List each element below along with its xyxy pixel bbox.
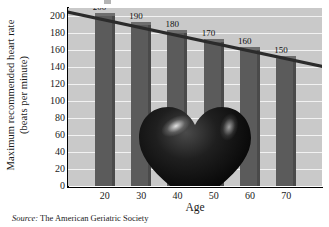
- y-axis-tick-label: 60: [37, 130, 65, 140]
- y-axis-title: Maximum recommended heart rate (beats pe…: [0, 0, 34, 190]
- bar: [240, 50, 260, 186]
- x-axis-tick-label: 40: [165, 191, 189, 201]
- y-axis-tick-label: 100: [37, 96, 65, 106]
- bar: [95, 16, 115, 186]
- y-axis-tick-label: 200: [37, 11, 65, 21]
- chart-figure: Maximum recommended heart rate (beats pe…: [0, 0, 329, 227]
- x-axis-tick-label: 60: [238, 191, 262, 201]
- x-axis-tick-label: 30: [129, 191, 153, 201]
- x-axis-title: Age: [68, 201, 322, 213]
- source-note: Source: The American Geriatric Society: [12, 213, 148, 223]
- bar: [204, 42, 224, 186]
- y-axis-title-line2: (beats per minute): [17, 20, 30, 171]
- x-axis-tick-label: 20: [93, 191, 117, 201]
- bar-side-face: [257, 50, 260, 186]
- bar-side-face: [148, 25, 151, 186]
- bar-side-face: [221, 42, 224, 186]
- bar-data-label: 150: [274, 46, 288, 55]
- y-axis-tick-label: 20: [37, 164, 65, 174]
- bar-data-label: 190: [129, 12, 143, 21]
- top-crop-artifact: [104, 0, 111, 4]
- y-axis-tick-label: 180: [37, 28, 65, 38]
- y-axis-title-line1: Maximum recommended heart rate: [4, 20, 17, 171]
- y-axis-tick-label: 120: [37, 79, 65, 89]
- y-axis-tick-label: 40: [37, 147, 65, 157]
- y-axis-tick-labels: 020406080100120140160180200: [36, 0, 65, 190]
- y-axis-tick-label: 0: [37, 181, 65, 191]
- bar-data-label: 160: [238, 37, 252, 46]
- bar: [131, 25, 151, 186]
- bar-side-face: [184, 33, 187, 186]
- y-axis-tick-label: 160: [37, 45, 65, 55]
- x-axis-tick-label: 70: [274, 191, 298, 201]
- bar-side-face: [293, 59, 296, 186]
- source-text: The American Geriatric Society: [40, 213, 148, 223]
- x-axis-tick-label: 50: [202, 191, 226, 201]
- x-axis-line: [67, 187, 323, 189]
- bar: [276, 59, 296, 186]
- y-axis-tick-label: 140: [37, 62, 65, 72]
- bar-data-label: 180: [165, 20, 179, 29]
- plot-area: 200190180170160150: [68, 8, 322, 186]
- source-keyword: Source:: [12, 213, 38, 223]
- bar-data-label: 200: [93, 8, 107, 12]
- bar-data-label: 170: [202, 29, 216, 38]
- heart-illustration: [138, 104, 252, 186]
- y-axis-tick-label: 80: [37, 113, 65, 123]
- bar-side-face: [112, 16, 115, 186]
- bar: [167, 33, 187, 186]
